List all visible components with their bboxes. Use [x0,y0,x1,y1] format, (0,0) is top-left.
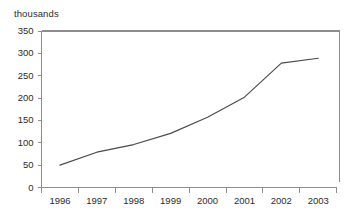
x-tick-label: 1999 [160,195,181,206]
x-tick-label: 2002 [271,195,292,206]
y-tick-label: 200 [18,92,34,103]
y-tick-group: 050100150200250300350 [18,25,42,193]
y-tick-label: 0 [28,182,33,193]
y-tick-label: 50 [23,159,34,170]
y-tick-label: 300 [18,47,34,58]
x-tick-label: 2003 [308,195,329,206]
x-tick-label: 1997 [86,195,107,206]
y-tick-label: 250 [18,70,34,81]
y-tick-label: 350 [18,25,34,36]
data-series-line [60,58,318,165]
x-axis-group: 19961997199819992000200120022003 [42,31,341,206]
x-tick-group: 19961997199819992000200120022003 [42,188,337,206]
y-axis-group: 050100150200250300350 [18,25,42,193]
x-tick-label: 1996 [49,195,70,206]
chart-screenshot: thousands 050100150200250300350 19961997… [0,0,352,218]
y-tick-label: 150 [18,114,34,125]
series-group [60,58,318,165]
y-tick-label: 100 [18,137,34,148]
x-tick-label: 2000 [197,195,218,206]
line-chart: 050100150200250300350 199619971998199920… [0,0,352,218]
x-tick-label: 2001 [234,195,255,206]
x-tick-label: 1998 [123,195,144,206]
